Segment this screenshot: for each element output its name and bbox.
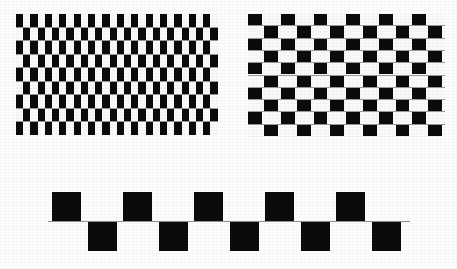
- square-above-line: [194, 192, 223, 221]
- square-above-line: [123, 192, 152, 221]
- square-above-line: [265, 192, 294, 221]
- cafe-wall-illusion-figure: [0, 0, 457, 269]
- square-below-line: [372, 222, 401, 251]
- twisted-cord-row: [0, 0, 457, 269]
- square-below-line: [159, 222, 188, 251]
- square-below-line: [88, 222, 117, 251]
- square-below-line: [301, 222, 330, 251]
- square-below-line: [230, 222, 259, 251]
- square-above-line: [336, 192, 365, 221]
- square-above-line: [52, 192, 81, 221]
